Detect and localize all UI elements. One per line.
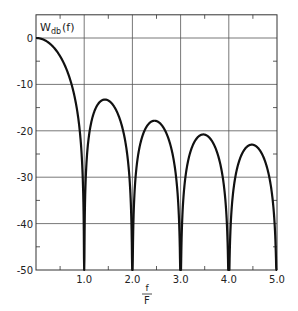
y-tick-label: 0	[27, 33, 33, 44]
window-response-curve	[36, 38, 277, 270]
plot-frame	[36, 15, 277, 270]
x-axis-title-numerator: f	[145, 283, 149, 293]
x-tick-label: 2.0	[124, 274, 140, 285]
x-tick-label: 3.0	[173, 274, 189, 285]
y-tick-label: -40	[17, 219, 33, 230]
plot-border	[36, 15, 277, 270]
y-tick-label: -10	[17, 79, 33, 90]
y-tick-label: -30	[17, 172, 33, 183]
axis-ticks	[36, 15, 277, 270]
y-tick-label: -50	[17, 265, 33, 276]
x-tick-label: 1.0	[76, 274, 92, 285]
y-axis-title: Wdb(f)	[40, 21, 75, 36]
x-tick-label: 4.0	[221, 274, 237, 285]
chart-svg: 0-10-20-30-40-50 1.02.03.04.05.0 Wdb(f) …	[0, 0, 298, 311]
grid-lines	[36, 15, 277, 270]
y-tick-labels: 0-10-20-30-40-50	[17, 33, 33, 276]
x-tick-labels: 1.02.03.04.05.0	[76, 274, 285, 285]
x-axis-title: f F	[142, 283, 152, 306]
y-tick-label: -20	[17, 126, 33, 137]
x-axis-title-denominator: F	[144, 295, 150, 306]
x-tick-label: 5.0	[269, 274, 285, 285]
